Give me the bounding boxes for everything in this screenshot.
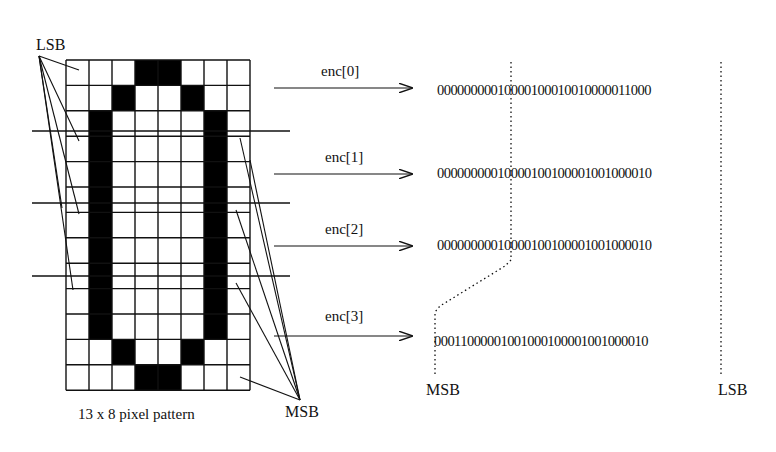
pixel-off	[66, 111, 89, 136]
pixel-off	[112, 365, 135, 390]
pixel-off	[181, 60, 204, 85]
pixel-off	[112, 187, 135, 212]
encoding-arrows	[274, 88, 412, 336]
pixel-off	[112, 111, 135, 136]
pixel-on	[112, 85, 135, 110]
enc1-label: enc[1]	[325, 150, 363, 165]
pixel-off	[112, 314, 135, 339]
pixel-pattern-caption: 13 x 8 pixel pattern	[78, 407, 195, 422]
pixel-off	[135, 238, 158, 263]
pixel-off	[158, 162, 181, 187]
pixel-off	[158, 289, 181, 314]
pixel-off	[227, 339, 250, 364]
pixel-on	[135, 60, 158, 85]
pixel-on	[204, 136, 227, 161]
pixel-off	[66, 60, 89, 85]
pixel-off	[204, 339, 227, 364]
enc2-bits: 00000000010000100100001001000010	[437, 238, 651, 253]
pixel-off	[66, 85, 89, 110]
pixel-off	[112, 289, 135, 314]
pixel-on	[204, 314, 227, 339]
pixel-off	[158, 339, 181, 364]
lsb-label-left: LSB	[36, 37, 65, 53]
pixel-off	[112, 238, 135, 263]
pixel-pattern-diagram	[0, 0, 776, 452]
pixel-off	[227, 111, 250, 136]
pixel-off	[204, 60, 227, 85]
pixel-off	[204, 85, 227, 110]
enc2-label: enc[2]	[325, 222, 363, 237]
pixel-on	[204, 111, 227, 136]
pixel-on	[89, 314, 112, 339]
pixel-on	[89, 187, 112, 212]
pixel-off	[158, 314, 181, 339]
pixel-off	[135, 314, 158, 339]
pixel-off	[158, 187, 181, 212]
pixel-on	[89, 238, 112, 263]
bit-boundary-dotted-lines	[435, 62, 721, 375]
pixel-off	[66, 136, 89, 161]
pixel-off	[135, 85, 158, 110]
pixel-off	[181, 162, 204, 187]
pixel-off	[227, 85, 250, 110]
pixel-off	[181, 238, 204, 263]
pixel-off	[135, 111, 158, 136]
pixel-off	[135, 212, 158, 237]
pixel-on	[181, 85, 204, 110]
enc3-label: enc[3]	[325, 309, 363, 324]
pixel-on	[158, 365, 181, 390]
pixel-off	[181, 289, 204, 314]
pixel-off	[158, 85, 181, 110]
enc0-bits: 00000000010000100010010000011000	[437, 83, 651, 98]
pixel-off	[89, 365, 112, 390]
pixel-off	[227, 136, 250, 161]
pixel-off	[181, 187, 204, 212]
pixel-off	[66, 289, 89, 314]
enc0-label: enc[0]	[321, 64, 359, 79]
pixel-off	[135, 339, 158, 364]
pixel-off	[158, 238, 181, 263]
pixel-on	[204, 212, 227, 237]
msb-boundary-line	[435, 62, 511, 374]
enc3-bits: 00011000001001000100001001000010	[434, 334, 648, 349]
pixel-on	[89, 162, 112, 187]
pixel-off	[181, 111, 204, 136]
pixel-on	[204, 162, 227, 187]
msb-label-left: MSB	[285, 404, 319, 420]
pixel-on	[89, 212, 112, 237]
pixel-on	[135, 365, 158, 390]
pixel-on	[112, 339, 135, 364]
pixel-on	[204, 187, 227, 212]
msb-label-right: MSB	[426, 382, 460, 398]
pixel-on	[204, 238, 227, 263]
pixel-off	[112, 136, 135, 161]
pixel-off	[135, 289, 158, 314]
pixel-on	[89, 111, 112, 136]
pixel-off	[227, 314, 250, 339]
pixel-on	[89, 289, 112, 314]
pixel-off	[227, 187, 250, 212]
pixel-off	[135, 162, 158, 187]
pixel-on	[89, 136, 112, 161]
pixel-off	[66, 365, 89, 390]
pixel-off	[204, 365, 227, 390]
pixel-on	[158, 60, 181, 85]
pixel-off	[181, 136, 204, 161]
pixel-off	[158, 212, 181, 237]
pixel-off	[66, 212, 89, 237]
pixel-off	[181, 314, 204, 339]
pixel-off	[227, 365, 250, 390]
pixel-off	[135, 136, 158, 161]
pixel-off	[89, 60, 112, 85]
pixel-off	[112, 60, 135, 85]
pixel-off	[135, 187, 158, 212]
pixel-off	[227, 60, 250, 85]
pixel-off	[181, 212, 204, 237]
pixel-on	[204, 289, 227, 314]
enc1-bits: 00000000010000100100001001000010	[437, 166, 651, 181]
lsb-label-right: LSB	[718, 382, 747, 398]
pixel-off	[181, 365, 204, 390]
pixel-off	[112, 212, 135, 237]
pixel-off	[112, 162, 135, 187]
pixel-on	[181, 339, 204, 364]
